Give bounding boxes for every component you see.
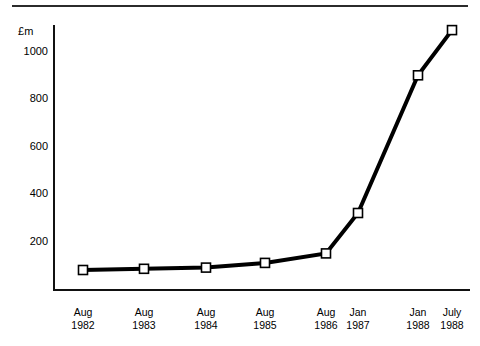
data-point-marker: [140, 264, 149, 273]
data-series-layer: [0, 0, 480, 346]
data-point-marker: [322, 249, 331, 258]
data-point-marker: [261, 258, 270, 267]
data-point-marker: [202, 263, 211, 272]
data-point-marker: [448, 26, 457, 35]
data-point-marker: [79, 266, 88, 275]
data-point-marker: [354, 209, 363, 218]
series-line: [83, 30, 452, 270]
series-markers: [79, 26, 457, 275]
chart-figure: £m 2004006008001000 Aug1982Aug1983Aug198…: [0, 0, 480, 346]
data-point-marker: [414, 71, 423, 80]
